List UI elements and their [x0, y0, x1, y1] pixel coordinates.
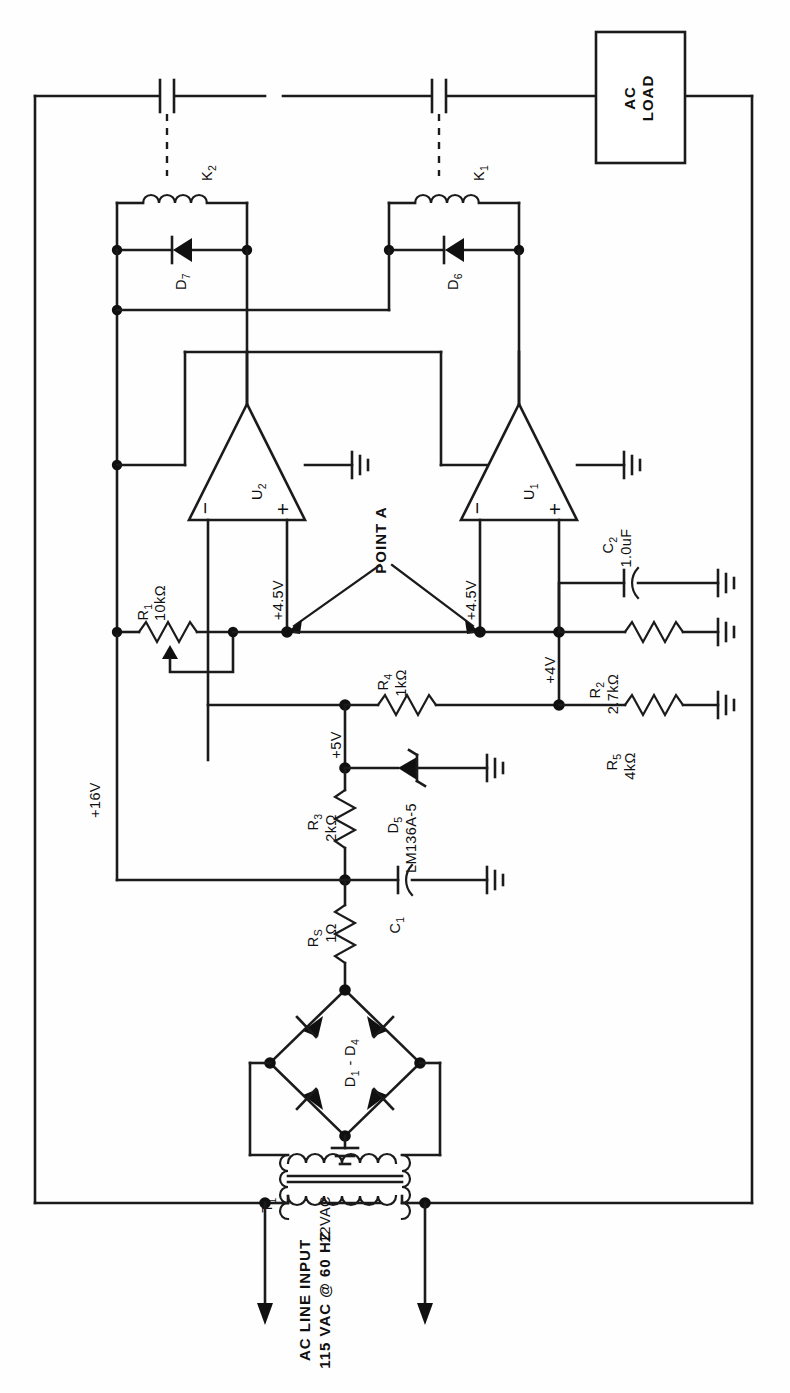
k2-refdes: K2: [199, 165, 218, 181]
schematic-page: AC LOAD K2 D7 K1: [0, 0, 790, 1393]
r4-value: 1kΩ: [393, 669, 409, 696]
rs-value: 1Ω: [323, 923, 339, 943]
regulator-branch: D5 LM136A-5 R3 2kΩ C1 +16V: [87, 635, 503, 934]
ground-symbol-r2: [718, 619, 734, 645]
supply-wiring: [112, 250, 519, 635]
diode-d7: D7: [112, 237, 252, 290]
r5-value: 4kΩ: [622, 752, 638, 779]
ac-line-input-line2: 115 VAC @ 60 HZ: [316, 1231, 333, 1369]
u1-ref-voltage-label: +4.5V: [463, 580, 479, 620]
r5-refdes: R5: [604, 753, 623, 770]
reference-bus: R1 10kΩ: [112, 585, 565, 672]
divider-bus: R4 1kΩ +5V: [208, 669, 565, 758]
c1-refdes: C1: [387, 916, 406, 933]
d6-refdes: D6: [445, 273, 464, 290]
rs-refdes: RS: [305, 929, 324, 947]
diode-d6: D6: [384, 237, 524, 290]
circuit-schematic: AC LOAD K2 D7 K1: [0, 0, 790, 1393]
r2-refdes: R2: [587, 681, 606, 698]
ac-load-line2: LOAD: [639, 75, 656, 122]
opamp-u1: U1 − + +4.5V +4V: [461, 352, 640, 705]
ac-line-input: AC LINE INPUT 115 VAC @ 60 HZ: [257, 1197, 433, 1369]
ac-line-input-line1: AC LINE INPUT: [296, 1239, 313, 1361]
ground-symbol-u1: [624, 452, 640, 478]
series-resistor-rs: RS 1Ω: [305, 880, 355, 990]
bridge-rectifier-d1-d4: D1 - D4: [264, 984, 426, 1142]
ac-load-line1: AC: [621, 86, 638, 110]
resistor-r2: R2 2.7kΩ: [559, 619, 734, 714]
relay-contact-k1: [432, 80, 446, 176]
u1-noninverting-label: +: [543, 503, 566, 515]
ground-symbol-d5: [487, 755, 503, 781]
u2-ref-voltage-label: +4.5V: [270, 580, 286, 620]
r3-value: 2kΩ: [323, 814, 339, 841]
ac-load-block: AC LOAD: [596, 32, 685, 163]
transformer-t1: T1 12VAC: [250, 1063, 440, 1243]
ground-symbol-u2: [352, 452, 368, 478]
ground-symbol-r5: [718, 692, 734, 718]
relay-coil-k1: K1: [389, 165, 519, 250]
c2-refdes: C2: [600, 536, 619, 553]
r1-value: 10kΩ: [152, 585, 168, 621]
u2-inverting-label: −: [193, 502, 216, 514]
ground-symbol-c1: [487, 867, 503, 893]
opamp-u2: U2 − + +4.5V: [189, 352, 368, 760]
point-a-annotation: POINT A: [287, 506, 480, 634]
d5-refdes: D5: [385, 816, 404, 833]
ground-symbol-c2: [718, 570, 734, 596]
u1-plus4v-label: +4V: [542, 656, 558, 683]
d5-value: LM136A-5: [403, 803, 419, 873]
r4-refdes: R4: [375, 673, 394, 690]
point-a-label: POINT A: [372, 506, 389, 573]
relay-coil-k2: K2: [117, 165, 247, 250]
u2-noninverting-label: +: [271, 503, 294, 515]
relay-contact-k2: [160, 80, 174, 176]
v16-label: +16V: [87, 782, 103, 818]
r3-refdes: R3: [305, 813, 324, 830]
k1-refdes: K1: [471, 165, 490, 181]
r2-value: 2.7kΩ: [605, 674, 621, 714]
v5-label: +5V: [328, 731, 344, 758]
u1-inverting-label: −: [465, 502, 488, 514]
resistor-r5: R5 4kΩ: [559, 692, 734, 780]
bridge-refdes: D1 - D4: [342, 1039, 361, 1087]
d7-refdes: D7: [173, 273, 192, 290]
c2-value: 1.0uF: [618, 528, 634, 567]
capacitor-c2: C2 1.0uF: [559, 528, 734, 632]
